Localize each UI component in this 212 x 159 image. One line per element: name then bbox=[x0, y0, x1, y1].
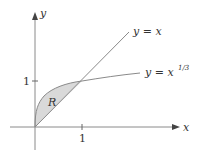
y-axis-arrow-icon bbox=[32, 12, 38, 20]
cube-root-label: y = x bbox=[144, 66, 174, 79]
curve-y-equals-x bbox=[35, 32, 129, 127]
x-axis-label: x bbox=[183, 121, 190, 134]
x-axis-arrow-icon bbox=[172, 124, 180, 130]
y-axis-label: y bbox=[39, 7, 47, 20]
line-label: y = x bbox=[132, 25, 162, 38]
cube-root-exponent: 1/3 bbox=[178, 64, 190, 72]
region-diagram: y x 1 1 R y = x y = x 1/3 bbox=[0, 0, 212, 159]
region-label: R bbox=[47, 96, 56, 109]
y-tick-label: 1 bbox=[23, 75, 30, 88]
x-tick-label: 1 bbox=[79, 132, 86, 145]
